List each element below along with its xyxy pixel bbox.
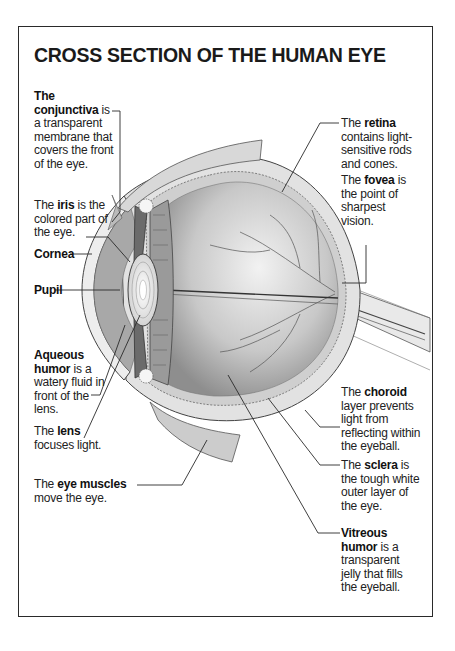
label-vitreous-humor: Vitreous humor is a transparent jelly th… — [341, 527, 421, 595]
label-choroid: The choroid layer prevents light from re… — [341, 386, 421, 454]
label-aqueous-humor: Aqueous humor is a watery fluid in front… — [34, 349, 106, 417]
label-conjunctiva: The conjunctiva is a transparent membran… — [34, 90, 114, 172]
label-lens: The lens focuses light. — [34, 425, 104, 452]
label-eye-muscles: The eye muscles move the eye. — [34, 478, 134, 505]
label-retina: The retina contains light-sensitive rods… — [341, 117, 416, 171]
label-cornea: Cornea — [34, 248, 74, 262]
label-fovea: The fovea is the point of sharpest visio… — [341, 174, 406, 228]
label-iris: The iris is the colored part of the eye. — [34, 199, 112, 240]
label-sclera: The sclera is the tough white outer laye… — [341, 459, 421, 513]
label-pupil: Pupil — [34, 284, 62, 298]
lens — [128, 254, 158, 326]
